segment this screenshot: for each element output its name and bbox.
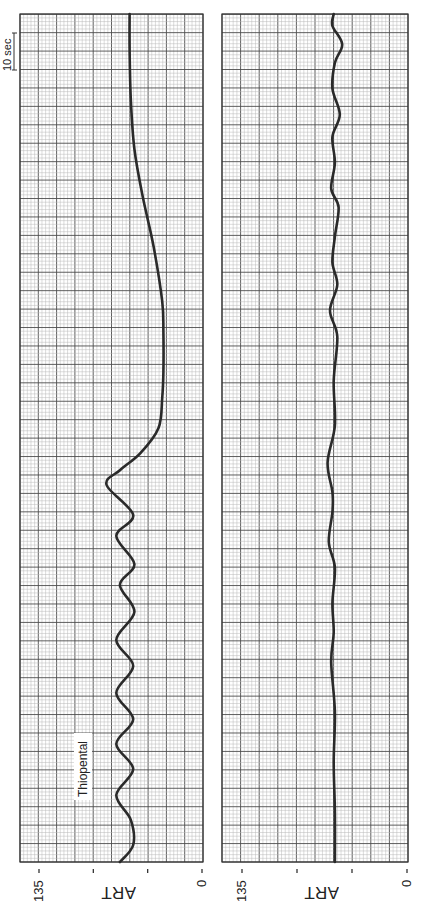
right-axis-title: ART xyxy=(304,882,339,902)
thiopental-annotation: Thiopental xyxy=(74,733,92,800)
thiopental-label: Thiopental xyxy=(76,741,90,797)
left-strip-panel xyxy=(20,14,203,873)
strip-chart-svg xyxy=(0,0,428,919)
left-tick-0: 0 xyxy=(194,880,209,887)
left-axis-title: ART xyxy=(101,882,136,902)
time-scale-label: 10 sec xyxy=(1,39,13,71)
chart-figure: 10 sec 135 0 ART Thiopental 135 0 ART xyxy=(0,0,428,919)
right-strip-panel xyxy=(222,14,408,873)
right-tick-0: 0 xyxy=(399,880,414,887)
right-tick-135: 135 xyxy=(234,880,249,902)
left-tick-135: 135 xyxy=(31,880,46,902)
